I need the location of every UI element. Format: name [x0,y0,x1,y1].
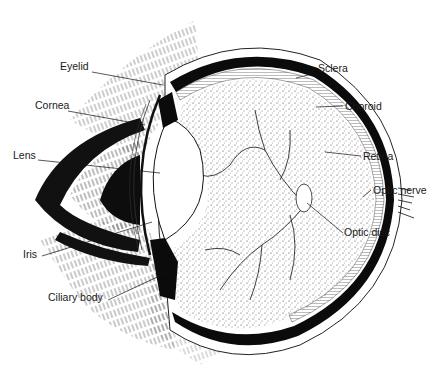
label-cornea: Cornea [35,99,69,111]
label-sclera: Sclera [318,62,348,74]
label-iris: Iris [23,248,37,260]
optic-disc-shape [296,184,312,212]
label-lens: Lens [13,149,36,161]
label-eyelid: Eyelid [60,60,89,72]
label-optic-disc: Optic disc [344,226,390,238]
label-ciliary-body: Ciliary body [48,291,103,303]
eye-anatomy-diagram: Eyelid Cornea Lens Iris Ciliary body Scl… [0,0,437,368]
label-optic-nerve: Optic nerve [373,184,427,196]
label-retina: Retina [363,150,393,162]
label-choroid: Choroid [345,100,382,112]
eye-illustration [0,0,437,368]
